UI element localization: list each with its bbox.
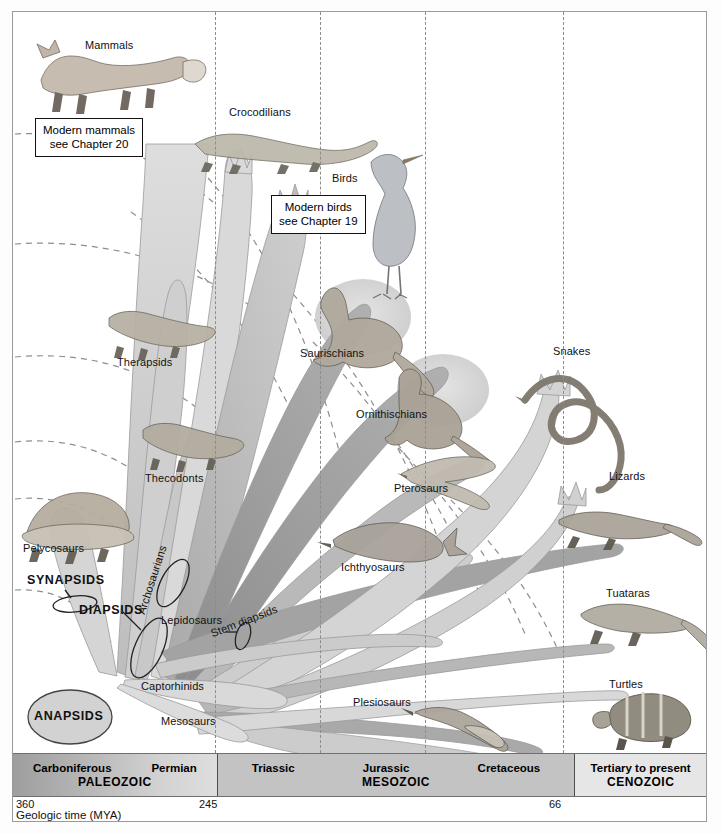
mya-scale-row: 360 245 66 Geologic time (MYA) — [13, 797, 706, 822]
era-name-cenozoic: CENOZOIC — [607, 775, 674, 789]
mammals-callout-line2: see Chapter 20 — [43, 137, 135, 151]
mammals-callout-line1: Modern mammals — [43, 123, 135, 137]
geologic-time-caption: Geologic time (MYA) — [16, 809, 121, 821]
label-mammals: Mammals — [85, 39, 133, 51]
period-triassic: Triassic — [252, 762, 295, 774]
cenozoic-periods: Tertiary to present — [575, 762, 706, 774]
period-guide-triassic-jurassic — [320, 12, 321, 753]
label-plesiosaurs: Plesiosaurs — [353, 696, 411, 708]
mya-tick-245: 245 — [199, 798, 217, 810]
label-anapsids: ANAPSIDS — [34, 710, 103, 722]
figure-frame: Mammals Crocodilians Birds Therapsids Sa… — [12, 11, 707, 822]
label-ornithischians: Ornithischians — [356, 408, 427, 420]
era-cenozoic: Tertiary to present CENOZOIC — [574, 754, 706, 796]
label-birds: Birds — [332, 172, 358, 184]
period-cretaceous: Cretaceous — [478, 762, 541, 774]
period-jurassic: Jurassic — [363, 762, 410, 774]
period-guide-permian-triassic — [215, 12, 216, 753]
label-ichthyosaurs: Ichthyosaurs — [341, 561, 405, 573]
label-mesosaurs: Mesosaurs — [161, 715, 216, 727]
period-carboniferous: Carboniferous — [33, 762, 112, 774]
label-pelycosaurs: Pelycosaurs — [23, 542, 84, 554]
label-pterosaurs: Pterosaurs — [394, 482, 448, 494]
lizard-illustration — [559, 512, 702, 550]
era-name-mesozoic: MESOZOIC — [362, 775, 430, 789]
label-thecodonts: Thecodonts — [145, 472, 203, 484]
label-lepidosaurs: Lepidosaurs — [161, 614, 222, 626]
period-tertiary-to-present: Tertiary to present — [591, 762, 691, 774]
era-mesozoic: Triassic Jurassic Cretaceous MESOZOIC — [217, 754, 575, 796]
period-permian: Permian — [151, 762, 196, 774]
fox-illustration — [37, 40, 206, 114]
era-paleozoic: Carboniferous Permian PALEOZOIC — [13, 754, 217, 796]
birds-callout-line1: Modern birds — [279, 200, 358, 214]
label-saurischians: Saurischians — [300, 347, 364, 359]
label-diapsids: DIAPSIDS — [79, 604, 143, 616]
label-lizards: Lizards — [609, 470, 645, 482]
label-captorhinids: Captorhinids — [141, 680, 204, 692]
label-turtles: Turtles — [609, 678, 643, 690]
mesozoic-periods: Triassic Jurassic Cretaceous — [218, 762, 575, 774]
mammals-callout: Modern mammals see Chapter 20 — [35, 118, 143, 157]
label-synapsids: SYNAPSIDS — [27, 574, 105, 586]
label-snakes: Snakes — [553, 345, 590, 357]
period-guide-jurassic-cretaceous — [425, 12, 426, 753]
label-crocodilians: Crocodilians — [229, 106, 291, 118]
birds-callout: Modern birds see Chapter 19 — [271, 195, 366, 234]
label-therapsids: Therapsids — [117, 356, 172, 368]
label-tuataras: Tuataras — [606, 587, 650, 599]
mya-tick-66: 66 — [549, 798, 561, 810]
figure-page: Mammals Crocodilians Birds Therapsids Sa… — [0, 0, 722, 834]
geologic-time-bar: Carboniferous Permian PALEOZOIC Triassic… — [13, 753, 706, 797]
birds-callout-line2: see Chapter 19 — [279, 214, 358, 228]
paleozoic-periods: Carboniferous Permian — [13, 762, 217, 774]
phylogeny-canvas: Mammals Crocodilians Birds Therapsids Sa… — [13, 12, 706, 753]
era-name-paleozoic: PALEOZOIC — [78, 775, 152, 789]
heron-illustration — [371, 155, 423, 300]
crocodile-illustration — [195, 134, 377, 174]
turtle-illustration — [593, 692, 691, 750]
period-guide-cretaceous-tertiary — [563, 12, 564, 753]
